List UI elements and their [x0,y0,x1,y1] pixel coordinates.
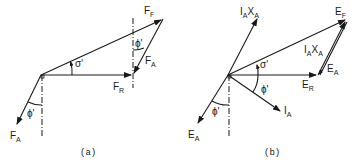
sigma-label: σ' [75,58,83,69]
ia-vector [228,75,280,111]
iaxa-label-top: IAXA [240,6,259,19]
iaxa-vector-top [228,19,257,75]
panel-a: FF FR FA FA σ' ϕ' ϕ' (a) [10,5,163,158]
phi-label-bottom: ϕ' [27,108,35,119]
ef-label: EF [335,6,346,19]
phi-arc-bottom [28,102,42,105]
caption-b: (b) [264,148,280,158]
sigma-label: σ' [260,59,268,70]
iaxa-label-mid: IAXA [304,44,323,57]
phi-label-bottom: ϕ' [212,106,220,117]
fr-label: FR [113,81,124,94]
phasor-diagram: FF FR FA FA σ' ϕ' ϕ' (a) IAXA EF IAXA EA… [0,0,357,166]
phi-label-top: ϕ' [135,38,143,49]
phi-arc-mid [253,75,258,92]
ff-label: FF [144,5,154,18]
ff-vector [41,20,161,75]
phi-arc-bottom [212,101,229,105]
fa-label-top: FA [145,55,156,68]
sigma-arc [257,65,258,75]
ea-label-bottom: EA [188,129,200,142]
fa-label-bottom: FA [10,130,21,143]
ia-label: IA [284,105,292,118]
ea-label-right: EA [327,63,339,76]
sigma-arc [71,62,73,75]
panel-b: IAXA EF IAXA EA ER IA EA σ' ϕ' ϕ' (b) [188,6,347,158]
er-label: ER [302,79,314,92]
phi-label-mid: ϕ' [261,84,269,95]
caption-a: (a) [80,148,96,158]
